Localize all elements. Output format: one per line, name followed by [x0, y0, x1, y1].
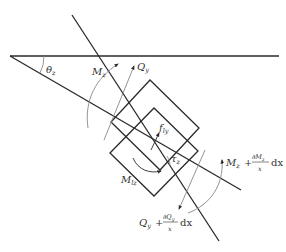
m-left-label: Mz	[91, 66, 106, 79]
q-left-label: Qy	[137, 61, 149, 74]
svg-text:dx: dx	[271, 157, 283, 168]
f-ly-label: fly	[158, 122, 169, 135]
svg-text:dx: dx	[180, 217, 192, 228]
svg-text:x: x	[168, 225, 172, 233]
theta-label: θz	[46, 64, 56, 77]
svg-text:∂Qy: ∂Qy	[163, 213, 175, 223]
svg-text:Qy: Qy	[139, 217, 151, 230]
internal-moment-arc	[133, 158, 161, 172]
theta-arc	[40, 56, 44, 73]
svg-text:Mz: Mz	[225, 157, 240, 170]
svg-text:x: x	[258, 165, 262, 173]
deformed-element-rect	[111, 80, 199, 170]
cross-section-line	[72, 15, 219, 241]
svg-text:∂Mz: ∂Mz	[252, 153, 265, 162]
m-lz-label: Mlz	[120, 174, 137, 187]
q-right-expression: Qy + ∂Qy x dx	[139, 213, 192, 233]
beam-axis-line	[10, 56, 241, 190]
tau-label: τz	[171, 153, 181, 166]
right-moment-arc	[188, 160, 222, 213]
m-right-expression: Mz + ∂Mz x dx	[225, 153, 283, 173]
beam-element-diagram: θz Mz Qy fly τz Mlz Mz + ∂Mz x dx Qy + ∂…	[0, 0, 286, 252]
